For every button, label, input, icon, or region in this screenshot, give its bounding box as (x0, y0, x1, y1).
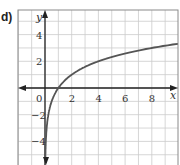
graph: xy 0246842−2−4 (0, 0, 180, 165)
x-axis-arrow-left-icon (18, 85, 26, 91)
y-tick-label: −2 (31, 110, 46, 121)
y-tick-label: −4 (31, 136, 46, 147)
x-tick-label: 6 (122, 93, 128, 104)
x-tick-label: 2 (69, 93, 75, 104)
y-tick-label: 2 (36, 56, 42, 67)
y-axis-label: y (35, 11, 43, 24)
x-tick-label: 4 (95, 93, 101, 104)
x-tick-label: 8 (149, 93, 155, 104)
y-axis-arrow-up-icon (42, 10, 48, 18)
y-tick-label: 4 (36, 30, 42, 41)
x-axis-label: x (170, 89, 177, 102)
x-tick-label: 0 (36, 93, 42, 104)
curve-arrow-down-icon (43, 157, 49, 165)
